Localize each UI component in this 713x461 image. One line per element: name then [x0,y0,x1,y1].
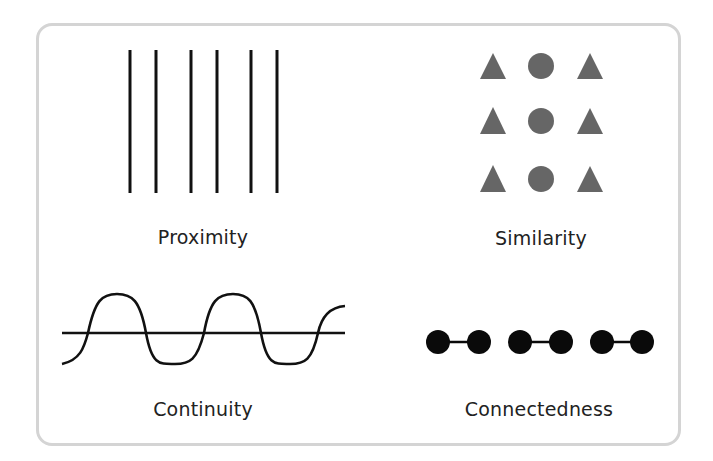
proximity-figure [130,50,277,193]
similarity-label: Similarity [421,227,661,249]
connectedness-label: Connectedness [419,398,659,420]
continuity-figure [62,294,345,364]
similarity-figure [480,53,603,192]
connectedness-figure [426,330,654,354]
proximity-label: Proximity [83,226,323,248]
continuity-label: Continuity [83,398,323,420]
